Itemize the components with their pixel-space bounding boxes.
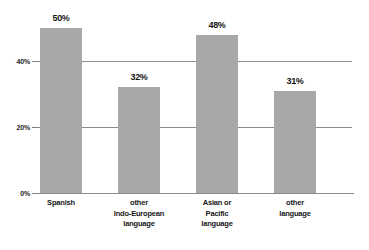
category-line: Asian or	[175, 198, 259, 209]
category-line: language	[175, 219, 259, 230]
bar-chart: 40% 20% 0% 50% 32% 48% 31% Spanish other…	[0, 0, 369, 250]
ytick-label-40: 40%	[17, 58, 30, 65]
category-label-other-indo-european: other Indo-European language	[97, 198, 181, 230]
bar-value-other-language: 31%	[286, 76, 303, 86]
category-line: Pacific	[175, 209, 259, 220]
bar-asian-or-pacific	[196, 35, 238, 193]
x-axis-line	[34, 193, 354, 194]
ytick-label-0: 0%	[20, 190, 30, 197]
category-line: other	[97, 198, 181, 209]
category-line: Indo-European	[97, 209, 181, 220]
bar-value-asian-or-pacific: 48%	[208, 20, 225, 30]
bars-layer	[38, 8, 352, 193]
category-line: Spanish	[19, 198, 103, 209]
ytick-label-20: 20%	[17, 124, 30, 131]
bar-value-spanish: 50%	[52, 13, 69, 23]
category-label-asian-or-pacific: Asian or Pacific language	[175, 198, 259, 230]
category-label-other-language: other language	[253, 198, 337, 219]
bar-other-indo-european	[118, 87, 160, 193]
category-line: language	[97, 219, 181, 230]
bar-other-language	[274, 91, 316, 193]
bar-value-other-indo-european: 32%	[130, 72, 147, 82]
bar-spanish	[40, 28, 82, 193]
category-label-spanish: Spanish	[19, 198, 103, 209]
category-line: language	[253, 209, 337, 220]
category-line: other	[253, 198, 337, 209]
